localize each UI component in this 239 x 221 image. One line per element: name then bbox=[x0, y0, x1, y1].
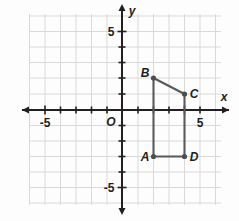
y-axis-arrow-down bbox=[119, 208, 126, 215]
y-axis-label: y bbox=[128, 4, 137, 18]
x-axis bbox=[22, 106, 229, 115]
coordinate-grid-svg: 5 -5 5 -5 O x y A B C D bbox=[0, 0, 239, 221]
point-a-dot bbox=[151, 154, 156, 159]
x-tick-label-positive: 5 bbox=[197, 116, 204, 130]
point-label-b: B bbox=[141, 66, 150, 80]
coordinate-plane-figure: 5 -5 5 -5 O x y A B C D bbox=[0, 0, 239, 221]
x-axis-arrow-right bbox=[222, 107, 229, 114]
point-label-d: D bbox=[190, 150, 199, 164]
x-axis-arrow-left bbox=[22, 107, 29, 114]
y-tick-label-negative: -5 bbox=[104, 181, 115, 195]
x-tick-label-negative: -5 bbox=[40, 116, 51, 130]
point-label-c: C bbox=[190, 87, 199, 101]
point-c-dot bbox=[182, 91, 187, 96]
point-d-dot bbox=[182, 154, 187, 159]
point-b-dot bbox=[151, 75, 156, 80]
origin-label: O bbox=[106, 115, 116, 129]
y-tick-label-positive: 5 bbox=[108, 25, 115, 39]
x-axis-label: x bbox=[220, 90, 229, 104]
point-label-a: A bbox=[140, 150, 150, 164]
y-axis-arrow-up bbox=[119, 4, 126, 11]
